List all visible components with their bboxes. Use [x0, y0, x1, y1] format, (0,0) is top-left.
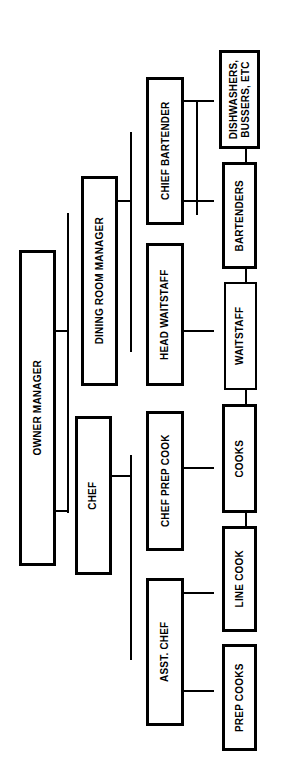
node-bartenders-label: BARTENDERS — [234, 180, 246, 251]
connector-spine-level1 — [67, 213, 69, 513]
connector-spine-dining — [130, 132, 132, 352]
org-chart: OWNER MANAGER DINING ROOM MANAGER CHEF C… — [0, 0, 283, 783]
node-bartenders[interactable]: BARTENDERS — [222, 162, 257, 269]
node-chef-label: CHEF — [88, 481, 100, 509]
node-cooks-label: COOKS — [234, 440, 246, 478]
connector-chief-bartender-dishwashers — [184, 100, 214, 102]
connector-spine-chief-bartender — [196, 100, 198, 215]
connector-bartenders-waitstaff — [245, 268, 247, 282]
node-asst-chef-label: ASST. CHEF — [159, 622, 171, 682]
node-chef-prep-cook[interactable]: CHEF PREP COOK — [146, 411, 184, 551]
node-line-cook-label: LINE COOK — [234, 550, 246, 607]
node-dishwashers-bussers-label: DISHWASHERS, BUSSERS, ETC — [228, 60, 251, 140]
node-head-waitstaff[interactable]: HEAD WAITSTAFF — [146, 243, 184, 386]
node-dining-room-manager-label: DINING ROOM MANAGER — [94, 217, 106, 344]
node-prep-cooks-label: PREP COOKS — [234, 663, 246, 732]
node-dining-room-manager[interactable]: DINING ROOM MANAGER — [81, 176, 118, 386]
connector-head-waitstaff-waitstaff — [184, 330, 214, 332]
node-owner-manager-label: OWNER MANAGER — [32, 360, 44, 455]
connector-dishwashers-bartenders — [245, 148, 247, 162]
connector-spine-chef — [130, 455, 132, 660]
node-head-waitstaff-label: HEAD WAITSTAFF — [159, 269, 171, 359]
connector-dining-out — [118, 200, 132, 202]
connector-chef-out — [112, 475, 132, 477]
connector-owner-to-spine — [56, 510, 69, 512]
node-chef[interactable]: CHEF — [75, 416, 112, 575]
node-line-cook[interactable]: LINE COOK — [222, 526, 257, 632]
node-dishwashers-bussers[interactable]: DISHWASHERS, BUSSERS, ETC — [219, 50, 260, 149]
node-cooks[interactable]: COOKS — [222, 404, 257, 513]
node-prep-cooks[interactable]: PREP COOKS — [222, 644, 257, 751]
node-waitstaff[interactable]: WAITSTAFF — [224, 282, 257, 390]
node-chief-bartender[interactable]: CHIEF BARTENDER — [146, 77, 184, 225]
connector-chef-prep-cook-cooks — [184, 467, 214, 469]
node-owner-manager[interactable]: OWNER MANAGER — [19, 250, 56, 566]
connector-asst-chef-line-cook — [184, 592, 214, 594]
connector-asst-chef-prep-cooks — [184, 690, 214, 692]
connector-spine-to-dining — [56, 330, 69, 332]
node-waitstaff-label: WAITSTAFF — [235, 307, 247, 365]
node-asst-chef[interactable]: ASST. CHEF — [146, 578, 184, 726]
connector-waitstaff-cooks — [245, 390, 247, 404]
connector-chief-bartender-bartenders — [184, 200, 214, 202]
node-chief-bartender-label: CHIEF BARTENDER — [159, 102, 171, 201]
node-chef-prep-cook-label: CHEF PREP COOK — [159, 435, 171, 528]
connector-cooks-linecook — [245, 512, 247, 526]
